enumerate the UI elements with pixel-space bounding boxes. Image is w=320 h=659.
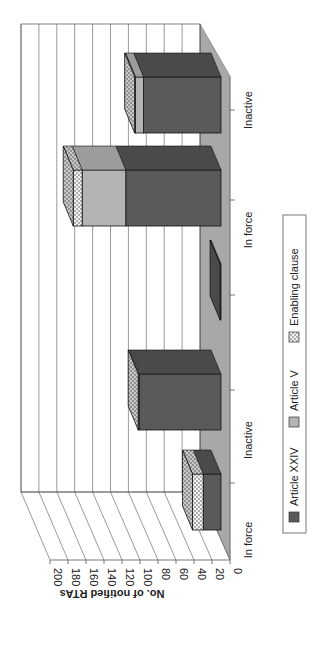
side-gridline (128, 492, 158, 560)
bar-segment-side (134, 53, 221, 77)
side-gridline (93, 492, 122, 560)
bar-segment-side (129, 350, 221, 374)
bar-segment (144, 77, 221, 133)
tick-label: 100 (142, 568, 154, 586)
legend-label: Article V (288, 369, 300, 411)
tick-label: 120 (124, 568, 136, 586)
bar-stack (183, 450, 221, 530)
category-axis: In forceInactiveIn forceInactive (230, 76, 254, 560)
legend: Article XXIVArticle VEnabling clause (283, 215, 306, 533)
tick-label: 60 (178, 568, 190, 580)
bar-stack (63, 146, 221, 226)
legend-label: Enabling clause (288, 248, 300, 326)
bar-segment (73, 170, 82, 226)
tick-label: 180 (70, 568, 82, 586)
legend-swatch (289, 417, 299, 427)
bar-stack (128, 350, 221, 430)
side-gridline (75, 492, 104, 560)
bar-stack (125, 53, 221, 133)
side-gridline (39, 492, 68, 560)
bar-segment (203, 474, 221, 530)
tick-label: 160 (88, 568, 100, 586)
bar-segment (82, 170, 126, 226)
tick-label: 0 (232, 568, 244, 574)
category-label: Inactive (242, 91, 254, 129)
bar-segment (193, 474, 204, 530)
tick-label: 40 (196, 568, 208, 580)
bar-segment (136, 77, 144, 133)
bar-segment (126, 170, 221, 226)
tick-label: 200 (52, 568, 64, 586)
side-gridline (111, 492, 141, 560)
side-gridline (57, 492, 86, 560)
category-label: In force (242, 522, 254, 559)
stacked-bar-chart-3d: 020406080100120140160180200No. of notifi… (0, 0, 320, 659)
legend-swatch (289, 332, 299, 342)
category-label: In force (242, 212, 254, 249)
value-axis-title: No. of notified RTAs (60, 588, 165, 600)
side-gridline (146, 492, 176, 560)
bar-segment-side (116, 146, 221, 170)
value-axis: 020406080100120140160180200No. of notifi… (50, 560, 244, 600)
side-gridline (21, 492, 50, 560)
legend-swatch (289, 512, 299, 522)
legend-label: Article XXIV (288, 447, 300, 506)
tick-label: 140 (106, 568, 118, 586)
category-label: Inactive (242, 421, 254, 459)
tick-label: 80 (160, 568, 172, 580)
tick-label: 20 (214, 568, 226, 580)
bar-segment (139, 374, 221, 430)
